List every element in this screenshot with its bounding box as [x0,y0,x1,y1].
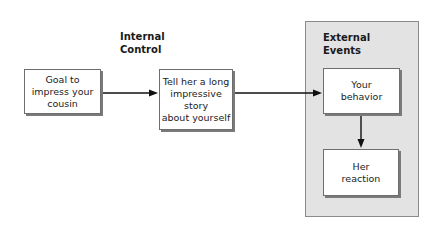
arrow-story-to-behavior [235,90,322,97]
arrow-goal-to-story [103,90,158,97]
arrow-behavior-to-reaction [358,116,365,148]
arrows-layer [0,0,438,228]
